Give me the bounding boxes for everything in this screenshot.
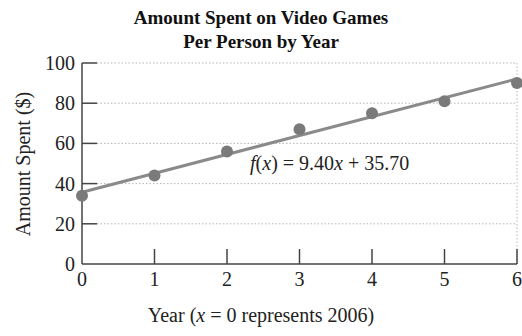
chart-title: Amount Spent on Video Games bbox=[134, 7, 388, 28]
y-tick-label: 80 bbox=[55, 92, 75, 114]
chart-subtitle: Per Person by Year bbox=[183, 31, 339, 52]
x-tick-label: 1 bbox=[150, 268, 160, 290]
y-axis-label: Amount Spent ($) bbox=[12, 92, 35, 236]
data-point bbox=[439, 95, 451, 107]
x-axis-label: Year (x = 0 represents 2006) bbox=[148, 304, 374, 327]
chart-canvas: Amount Spent on Video Games Per Person b… bbox=[0, 0, 522, 336]
x-tick-label: 4 bbox=[367, 268, 377, 290]
trendline-equation: f(x) = 9.40x + 35.70 bbox=[250, 152, 409, 175]
y-tick-label: 0 bbox=[65, 253, 75, 275]
x-tick-label: 0 bbox=[77, 268, 87, 290]
x-tick-label: 2 bbox=[222, 268, 232, 290]
x-tick-labels: 0123456 bbox=[77, 268, 522, 290]
data-point bbox=[76, 190, 88, 202]
data-point bbox=[149, 170, 161, 182]
x-tick-label: 6 bbox=[512, 268, 522, 290]
data-point bbox=[366, 107, 378, 119]
data-point bbox=[294, 123, 306, 135]
y-tick-label: 60 bbox=[55, 132, 75, 154]
y-tick-labels: 020406080100 bbox=[45, 52, 75, 275]
data-point bbox=[221, 145, 233, 157]
x-tick-label: 5 bbox=[440, 268, 450, 290]
y-tick-label: 20 bbox=[55, 213, 75, 235]
x-tick-label: 3 bbox=[295, 268, 305, 290]
y-tick-label: 100 bbox=[45, 52, 75, 74]
y-tick-label: 40 bbox=[55, 173, 75, 195]
trend-line bbox=[82, 79, 517, 192]
